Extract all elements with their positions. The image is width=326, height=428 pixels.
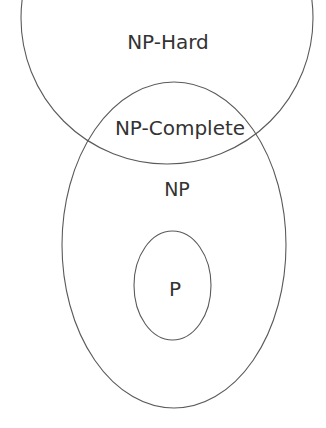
np-label: NP	[164, 178, 190, 200]
background	[0, 0, 326, 428]
complexity-classes-diagram: NP-Hard NP-Complete NP P	[0, 0, 326, 428]
np-hard-label: NP-Hard	[127, 30, 209, 54]
p-label: P	[169, 277, 181, 301]
np-complete-label: NP-Complete	[115, 116, 245, 140]
